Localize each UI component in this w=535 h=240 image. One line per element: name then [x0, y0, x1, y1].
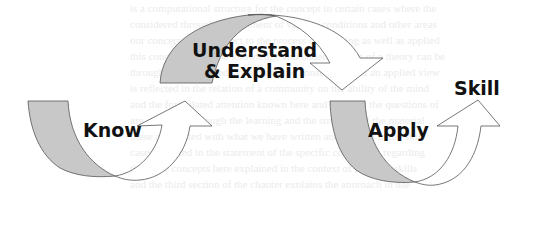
- apply-arrow-head: [415, 100, 500, 185]
- apply-arrow-tail: [330, 101, 415, 183]
- label-apply: Apply: [368, 120, 429, 141]
- apply-arrow-icon: [330, 100, 500, 185]
- label-understand-line2: & Explain: [192, 61, 317, 82]
- label-understand-line1: Understand: [192, 40, 317, 61]
- label-understand-explain: Understand & Explain: [192, 40, 317, 82]
- label-skill: Skill: [454, 78, 500, 99]
- label-know: Know: [83, 120, 142, 141]
